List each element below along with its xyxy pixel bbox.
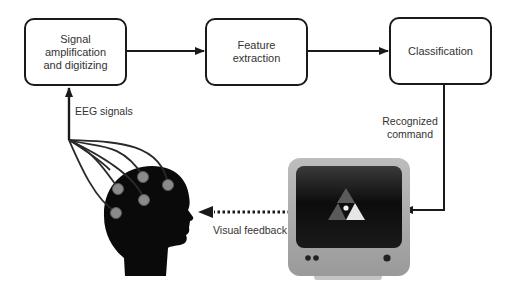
electrode-icon [113, 184, 124, 195]
electrode-icon [138, 172, 149, 183]
bci-diagram: Signal amplification and digitizing Feat… [0, 0, 515, 288]
box-signal-amplification-label: Signal amplification and digitizing [43, 33, 107, 72]
electrode-icon [163, 180, 174, 191]
monitor-icon [288, 158, 410, 280]
electrode-icon [139, 195, 150, 206]
head-icon [104, 166, 193, 276]
box-signal-amplification: Signal amplification and digitizing [24, 18, 127, 86]
feedback-arrowhead [198, 206, 213, 218]
eeg-signals-label: EEG signals [75, 105, 133, 118]
recognized-command-label: Recognized command [378, 115, 442, 141]
visual-feedback-label: Visual feedback [213, 224, 287, 237]
electrode-icon [111, 208, 122, 219]
box-feature-extraction-label: Feature extraction [233, 39, 281, 65]
box-feature-extraction: Feature extraction [205, 18, 308, 86]
box-classification: Classification [389, 17, 492, 85]
box-classification-label: Classification [408, 45, 473, 58]
